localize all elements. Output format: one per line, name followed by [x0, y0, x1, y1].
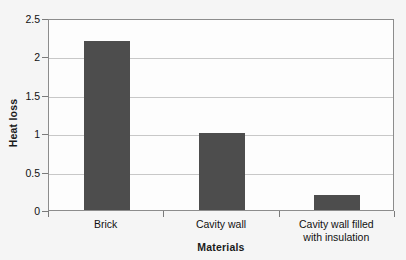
x-category-label: Cavity wall: [163, 218, 278, 231]
x-category-label: Brick: [48, 218, 163, 231]
bar-chart: Heat loss 00.511.522.5 BrickCavity wallC…: [0, 0, 406, 260]
bar-slot: [49, 20, 164, 210]
bar-slot: [164, 20, 279, 210]
x-tick-mark: [279, 211, 280, 217]
bar[interactable]: [199, 133, 245, 210]
x-axis-title: Materials: [48, 241, 394, 253]
x-category-label-line: Brick: [48, 218, 163, 231]
x-category-label: Cavity wall filledwith insulation: [279, 218, 394, 243]
x-tick-mark: [48, 211, 49, 217]
x-tick-mark: [163, 211, 164, 217]
bar-slot: [280, 20, 395, 210]
bar[interactable]: [314, 195, 360, 210]
x-tick-mark: [394, 211, 395, 217]
x-category-label-line: Cavity wall filled: [279, 218, 394, 231]
plot-area: [48, 19, 394, 211]
bar[interactable]: [84, 41, 130, 210]
x-category-label-line: Cavity wall: [163, 218, 278, 231]
bars-group: [49, 20, 393, 210]
